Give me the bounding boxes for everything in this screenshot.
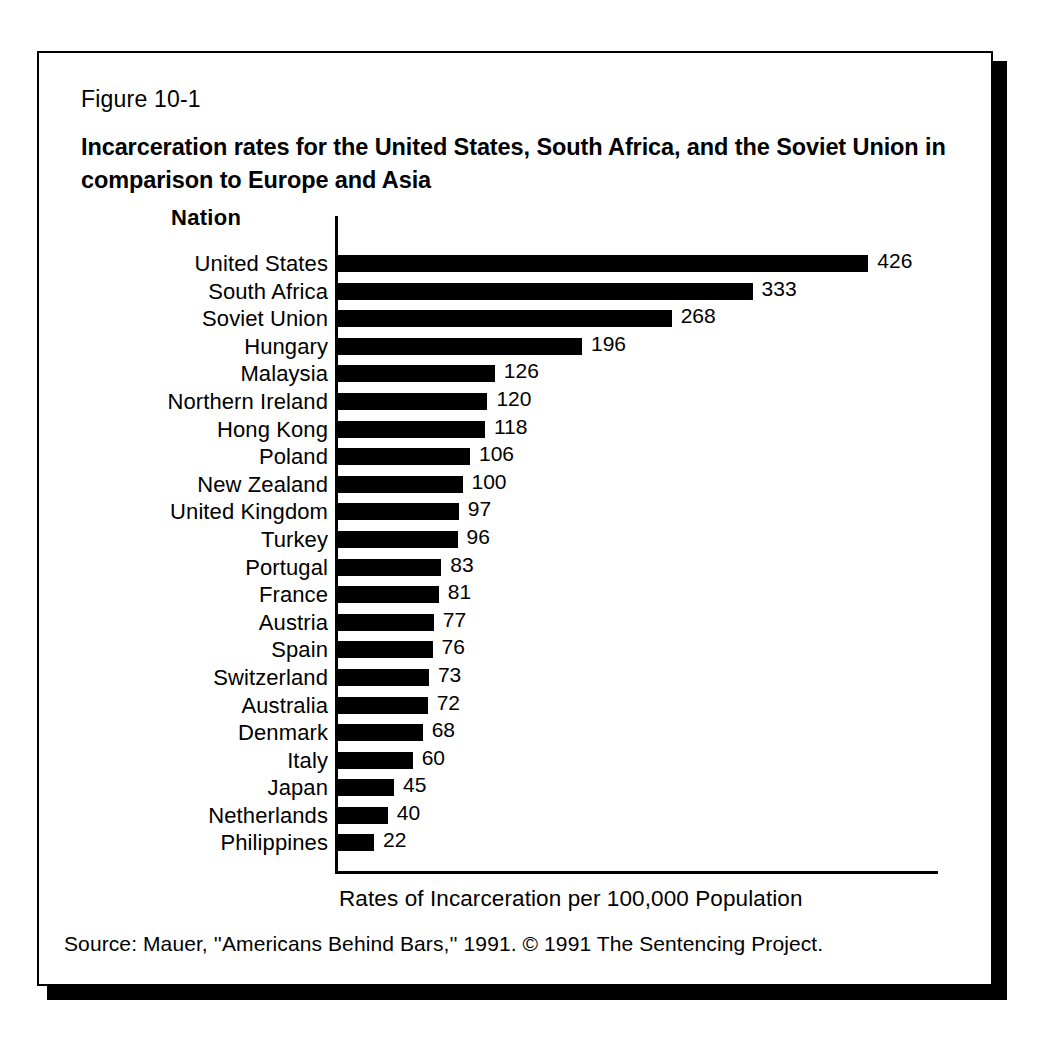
bar-row: Turkey96 [39, 528, 995, 556]
bar-row-label: Northern Ireland [167, 390, 328, 413]
bar-holder [338, 255, 868, 272]
bar-row-label: Japan [268, 776, 328, 799]
bar-row: Netherlands40 [39, 804, 995, 832]
bar-holder [338, 586, 439, 603]
bar-value-label: 68 [432, 719, 455, 741]
bar-row: Switzerland73 [39, 666, 995, 694]
x-axis-line [335, 871, 938, 874]
bar-row: Soviet Union268 [39, 307, 995, 335]
bar-chart-plot-area: United States426South Africa333Soviet Un… [39, 53, 995, 988]
bar-row-label: New Zealand [197, 473, 328, 496]
bar-holder [338, 476, 463, 493]
bar [338, 393, 487, 410]
bar-row-label: Switzerland [213, 666, 328, 689]
bar-holder [338, 614, 434, 631]
bar-value-label: 40 [397, 802, 420, 824]
bar-row-label: Poland [259, 445, 328, 468]
bar-row-label: Denmark [238, 721, 328, 744]
bar-holder [338, 365, 495, 382]
bar-value-label: 426 [877, 250, 912, 272]
bar [338, 476, 463, 493]
bar-row: United Kingdom97 [39, 500, 995, 528]
bar-row-label: South Africa [208, 280, 328, 303]
bar-row-label: Philippines [220, 831, 328, 854]
bar-value-label: 333 [762, 278, 797, 300]
bar-row: New Zealand100 [39, 473, 995, 501]
bar-holder [338, 779, 394, 796]
bar-row-label: Portugal [245, 556, 328, 579]
bar-holder [338, 834, 374, 851]
bar-holder [338, 421, 485, 438]
bar-value-label: 196 [591, 333, 626, 355]
bar-value-label: 73 [438, 664, 461, 686]
bar-value-label: 106 [479, 443, 514, 465]
bar [338, 503, 459, 520]
bar-value-label: 120 [496, 388, 531, 410]
bar [338, 752, 413, 769]
bar-holder [338, 697, 428, 714]
bar-holder [338, 448, 470, 465]
bar [338, 614, 434, 631]
bar-value-label: 118 [494, 416, 527, 438]
bar-value-label: 83 [450, 554, 473, 576]
bar-row: Japan45 [39, 776, 995, 804]
bar-row-label: United Kingdom [170, 500, 328, 523]
bar-holder [338, 393, 487, 410]
bar-row: Philippines22 [39, 831, 995, 859]
bar-row: Austria77 [39, 611, 995, 639]
bar-holder [338, 310, 672, 327]
bar-row-label: Hungary [244, 335, 328, 358]
bar-value-label: 268 [681, 305, 716, 327]
bar [338, 255, 868, 272]
bar [338, 559, 441, 576]
bar-value-label: 97 [468, 498, 491, 520]
bar [338, 586, 439, 603]
figure-border-box: Figure 10-1 Incarceration rates for the … [37, 51, 993, 986]
bar-row-label: France [259, 583, 328, 606]
source-note: Source: Mauer, ''Americans Behind Bars,'… [64, 932, 823, 956]
bar-row: United States426 [39, 252, 995, 280]
bar-holder [338, 724, 423, 741]
bar-value-label: 60 [422, 747, 445, 769]
bar-holder [338, 503, 459, 520]
bar-value-label: 77 [443, 609, 466, 631]
bar-row: Malaysia126 [39, 362, 995, 390]
bar-row: Denmark68 [39, 721, 995, 749]
bar-value-label: 100 [472, 471, 507, 493]
bar-holder [338, 283, 753, 300]
bar-row: Italy60 [39, 749, 995, 777]
bar-row-label: Soviet Union [202, 307, 328, 330]
bar-rows: United States426South Africa333Soviet Un… [39, 252, 995, 859]
bar [338, 421, 485, 438]
bar-holder [338, 559, 441, 576]
bar-row-label: Hong Kong [217, 418, 328, 441]
bar-row: Australia72 [39, 694, 995, 722]
bar [338, 724, 423, 741]
bar-value-label: 45 [403, 774, 426, 796]
bar [338, 531, 458, 548]
bar-value-label: 126 [504, 360, 539, 382]
bar-value-label: 96 [467, 526, 490, 548]
bar-row: Hungary196 [39, 335, 995, 363]
bar [338, 338, 582, 355]
bar-row-label: Malaysia [240, 362, 328, 385]
bar-row: South Africa333 [39, 280, 995, 308]
bar-row: Poland106 [39, 445, 995, 473]
bar [338, 283, 753, 300]
bar-value-label: 22 [383, 829, 406, 851]
figure-container: Figure 10-1 Incarceration rates for the … [37, 51, 997, 990]
bar-holder [338, 752, 413, 769]
bar-row-label: United States [195, 252, 328, 275]
bar-holder [338, 641, 433, 658]
bar-row-label: Australia [242, 694, 329, 717]
bar-holder [338, 669, 429, 686]
bar [338, 807, 388, 824]
bar [338, 834, 374, 851]
bar-holder [338, 531, 458, 548]
bar-row: Hong Kong118 [39, 418, 995, 446]
bar-row: Portugal83 [39, 556, 995, 584]
bar-holder [338, 807, 388, 824]
bar-row-label: Netherlands [208, 804, 328, 827]
bar-row-label: Spain [271, 638, 328, 661]
bar-value-label: 72 [437, 692, 460, 714]
